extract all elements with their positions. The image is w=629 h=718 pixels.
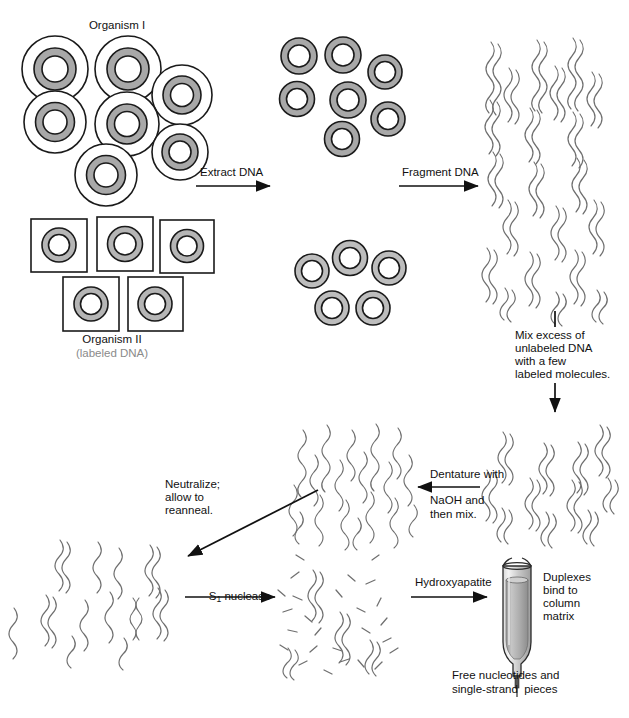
ssdna (67, 636, 75, 668)
nucleus (371, 102, 405, 136)
nucleus (280, 82, 315, 117)
ssdna (390, 498, 398, 548)
diagram-canvas: Organism I Organism II (labeled DNA) Ext… (0, 0, 629, 718)
free-line-1: Free nucleotides and (452, 669, 559, 683)
organism-2-sublabel: (labeled DNA) (57, 347, 167, 361)
neutralize-line-3: reanneal. (165, 504, 213, 518)
free-nucleotide-dashes (278, 555, 398, 674)
ssdna (371, 424, 380, 491)
organism2-cell (97, 217, 153, 271)
ssdna (295, 512, 303, 544)
dna-duplex (529, 162, 544, 218)
duplexes-line-4: matrix (543, 610, 574, 624)
ssdna (310, 455, 318, 506)
ssdna (353, 518, 361, 550)
ssdna (384, 462, 392, 513)
dna-duplex (488, 152, 503, 208)
denature-line-2: NaOH and (430, 494, 484, 508)
duplexes-line-2: bind to (543, 584, 578, 598)
dna-duplex (532, 40, 548, 113)
dna-duplex (335, 612, 350, 665)
nucleus (330, 82, 366, 118)
nucleus (295, 254, 329, 288)
fragment-dna-label: Fragment DNA (402, 166, 479, 180)
ssdna (335, 460, 343, 511)
dna-duplex (525, 252, 540, 308)
dna-single-strand-cluster (289, 424, 417, 550)
ssdna (393, 428, 401, 479)
nucleus (368, 55, 402, 89)
dna-duplex (55, 540, 70, 593)
mix-line-2: unlabeled DNA (515, 342, 592, 356)
ssdna (289, 485, 297, 536)
organism2-cell (31, 219, 87, 272)
ssdna (80, 600, 88, 651)
dna-duplex (589, 200, 604, 256)
denature-line-1: Dentature with (430, 468, 504, 482)
organism1-cell (152, 65, 212, 125)
dna-duplex (570, 250, 585, 306)
ssdna (93, 542, 101, 593)
organism-1-label: Organism I (62, 19, 172, 33)
dna-duplex (41, 595, 56, 648)
mix-line-3: with a few (515, 355, 566, 369)
s1-nuclease-label: S1 nuclease (196, 576, 270, 620)
dna-duplex (568, 38, 584, 111)
neutralize-line-2: allow to (165, 491, 204, 505)
dna-duplex (541, 512, 556, 548)
nucleus (333, 241, 368, 276)
dna-duplex (500, 288, 515, 322)
free-line-2: single-strand pieces (452, 683, 557, 697)
dna-duplex-cluster-topright (482, 38, 607, 326)
ssdna (298, 430, 307, 497)
organism1-cell-group (22, 36, 212, 206)
duplexes-line-3: column (543, 597, 580, 611)
duplexes-line-1: Duplexes (543, 571, 591, 585)
ssdna (347, 430, 355, 481)
mix-line-4: labeled molecules. (515, 368, 610, 382)
ssdna (359, 452, 367, 503)
nucleus (325, 122, 360, 157)
nucleus (315, 291, 349, 325)
ssdna (366, 492, 374, 543)
extract-dna-label: Extract DNA (200, 166, 263, 180)
dna-duplex (365, 640, 380, 676)
dna-duplex (497, 508, 512, 544)
nucleus (372, 251, 406, 285)
dna-duplex (308, 570, 323, 623)
ssdna (119, 638, 127, 670)
dna-reannealed-cluster (9, 540, 168, 670)
dna-duplex (504, 68, 519, 124)
dna-duplex (153, 588, 168, 641)
organism2-cell (160, 220, 214, 273)
organism1-cell (75, 144, 137, 206)
neutralize-line-1: Neutralize; (165, 478, 220, 492)
organism2-cell (63, 277, 119, 331)
organism1-cell (24, 91, 86, 153)
nucleus (356, 291, 390, 325)
dna-duplex (550, 66, 565, 122)
dna-duplex (603, 478, 618, 514)
dna-duplex (525, 478, 540, 531)
hydroxyapatite-label: Hydroxyapatite (415, 576, 492, 590)
denature-line-3: then mix. (430, 508, 477, 522)
dna-duplex (595, 425, 610, 478)
extracted-nuclei-bottom (295, 241, 406, 326)
dna-duplex (539, 443, 554, 496)
ssdna (322, 425, 331, 492)
dna-duplex (283, 648, 298, 680)
dna-duplex (525, 108, 540, 164)
ssdna (409, 505, 417, 537)
ssdna (404, 455, 412, 506)
organism2-cell (128, 277, 183, 331)
dna-duplex (551, 292, 566, 326)
organism2-cell-group (31, 217, 214, 331)
ssdna (9, 608, 17, 659)
organism-2-label: Organism II (57, 333, 167, 347)
s1-nuclease-text: nuclease (221, 590, 270, 602)
dna-duplex (130, 598, 142, 640)
dna-duplex (503, 200, 518, 256)
dna-s1-product-cluster (278, 555, 398, 680)
dna-duplex (587, 72, 602, 128)
dna-duplex (145, 545, 160, 598)
